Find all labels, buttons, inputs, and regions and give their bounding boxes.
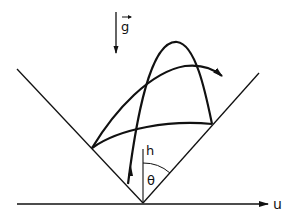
gravity-label: g	[121, 19, 129, 34]
h-axis-label: h	[146, 143, 154, 158]
wedge-right-wall	[143, 73, 259, 203]
u-axis-label: u	[273, 196, 282, 212]
wedge-billiard-diagram: u h θ g	[0, 0, 295, 219]
wedge-left-wall	[17, 69, 143, 203]
theta-arc	[143, 163, 170, 173]
theta-label: θ	[147, 173, 155, 188]
trajectory-tall-parabola	[128, 42, 212, 184]
